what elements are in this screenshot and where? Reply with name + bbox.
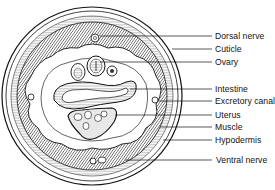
- label-uterus: Uterus: [215, 110, 241, 120]
- label-intestine: Intestine: [215, 84, 248, 94]
- label-ventral-nerve: Ventral nerve: [216, 155, 267, 165]
- label-excretory-canal: Excretory canal: [215, 96, 275, 106]
- label-hypodermis: Hypodermis: [215, 135, 261, 145]
- label-muscle: Muscle: [215, 122, 243, 132]
- label-ovary: Ovary: [215, 57, 238, 67]
- label-cuticle: Cuticle: [215, 44, 242, 54]
- dorsal-nerve: [91, 34, 99, 42]
- label-dorsal-nerve: Dorsal nerve: [215, 31, 264, 41]
